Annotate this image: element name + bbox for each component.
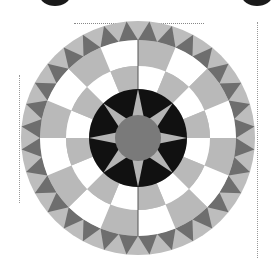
center-disc bbox=[115, 115, 161, 161]
figure-canvas bbox=[0, 0, 276, 266]
center-disc-circle bbox=[115, 115, 161, 161]
mariners-compass bbox=[0, 0, 276, 266]
